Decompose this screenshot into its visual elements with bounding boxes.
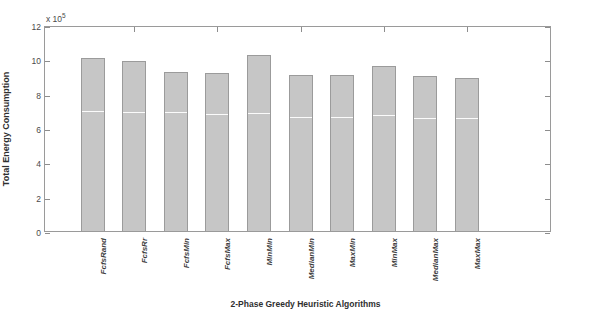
y-tick-label: 0 [36,228,41,238]
bar[interactable] [205,73,229,231]
bar[interactable] [247,55,271,231]
x-category-label: MedianMax [431,238,440,298]
y-tick [45,96,50,97]
plot-area: 024681012 [44,26,551,232]
y-tick-label: 4 [36,159,41,169]
bar-segment-divider [82,111,104,112]
y-tick-label: 2 [36,194,41,204]
bar-segment-divider [414,118,436,119]
x-category-label: FcfsRr [140,238,149,298]
bar[interactable] [122,61,146,231]
bar-segment-divider [206,114,228,115]
y-tick-mirror [545,61,550,62]
y-axis-title: Total Energy Consumption [1,72,11,186]
y-tick-mirror [545,27,550,28]
y-tick [45,27,50,28]
y-tick [45,164,50,165]
x-tick-top [384,27,385,32]
bar-segment-divider [373,115,395,116]
y-tick-label: 8 [36,91,41,101]
bar[interactable] [372,66,396,231]
bar[interactable] [330,75,354,231]
x-tick-top [134,27,135,32]
figure-canvas: x 105 Total Energy Consumption 024681012… [0,0,611,319]
x-category-label: FcfsRand [99,238,108,298]
bar-segment-divider [331,117,353,118]
bar[interactable] [81,58,105,231]
y-axis-exponent: x 105 [46,12,66,24]
x-category-label: FcfsMin [182,238,191,298]
bar[interactable] [164,72,188,231]
y-tick [45,130,50,131]
y-tick-label: 6 [36,125,41,135]
bar-segment-divider [165,112,187,113]
y-tick-mirror [545,130,550,131]
y-tick-mirror [545,199,550,200]
y-axis-exponent-power: 5 [62,12,66,19]
x-tick-top [217,27,218,32]
y-tick-label: 12 [32,22,41,32]
x-category-label: MinMax [390,238,399,298]
bar-segment-divider [456,118,478,119]
bar-segment-divider [248,113,270,114]
x-category-label: MaxMax [473,238,482,298]
y-tick-label: 10 [32,56,41,66]
bar[interactable] [455,78,479,231]
y-axis-exponent-base: x 10 [46,14,62,24]
x-category-label: MedianMin [307,238,316,298]
bar-segment-divider [123,112,145,113]
y-tick [45,199,50,200]
x-category-label: FcfsMax [223,238,232,298]
bar-segment-divider [290,117,312,118]
x-category-label: MaxMin [348,238,357,298]
y-tick-mirror [545,96,550,97]
x-category-label: MinMin [265,238,274,298]
bar[interactable] [289,75,313,231]
x-axis-title: 2-Phase Greedy Heuristic Algorithms [0,299,611,309]
y-tick-mirror [545,164,550,165]
x-tick-top [301,27,302,32]
y-tick [45,233,50,234]
bar[interactable] [413,76,437,231]
y-tick-mirror [545,233,550,234]
y-tick [45,61,50,62]
x-tick-top [467,27,468,32]
